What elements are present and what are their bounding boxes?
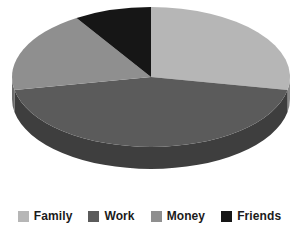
pie-slice-family[interactable]	[151, 7, 290, 90]
legend-item-family[interactable]: Family	[18, 210, 73, 223]
legend-label-work: Work	[104, 210, 134, 223]
pie-chart-canvas	[0, 0, 299, 200]
legend-swatch-family	[18, 211, 29, 222]
legend-item-friends[interactable]: Friends	[221, 210, 281, 223]
legend-label-friends: Friends	[237, 210, 281, 223]
legend-swatch-money	[151, 211, 162, 222]
legend-label-family: Family	[34, 210, 73, 223]
pie-top-face-layer	[12, 7, 290, 147]
legend-swatch-friends	[221, 211, 232, 222]
pie-chart-figure: Family Work Money Friends	[0, 0, 299, 236]
legend-item-money[interactable]: Money	[151, 210, 206, 223]
legend-swatch-work	[88, 211, 99, 222]
legend-item-work[interactable]: Work	[88, 210, 134, 223]
legend-label-money: Money	[167, 210, 206, 223]
chart-legend: Family Work Money Friends	[0, 203, 299, 229]
